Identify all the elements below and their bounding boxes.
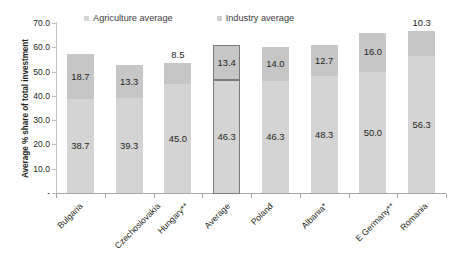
bar-segment-agriculture[interactable]: 48.3 <box>311 76 338 193</box>
plot-area: 70.060.050.040.030.020.010.0- 38.718.739… <box>56 18 446 194</box>
bar-segment-agriculture[interactable]: 50.0 <box>359 72 386 193</box>
x-axis-category-label: Czechoslovakia <box>113 201 163 251</box>
chart-container: Average % share of total investment Agri… <box>0 0 450 273</box>
y-axis-title: Average % share of total investment <box>21 14 30 204</box>
bar-segment-industry[interactable]: 8.5 <box>164 63 191 84</box>
y-axis-tick-mark <box>52 144 56 145</box>
bar-value-label: 56.3 <box>413 120 431 129</box>
x-axis-tick-mark <box>349 194 350 198</box>
y-axis-tick-mark <box>52 23 56 24</box>
bar-column[interactable]: 39.313.3 <box>116 65 143 193</box>
bar-value-label: 18.7 <box>71 72 89 81</box>
y-axis-tick-mark <box>52 96 56 97</box>
bar-segment-agriculture[interactable]: 45.0 <box>164 84 191 193</box>
bar-segment-agriculture[interactable]: 46.3 <box>213 80 240 194</box>
y-axis-tick-mark <box>52 169 56 170</box>
bar-segment-industry[interactable]: 18.7 <box>67 54 94 99</box>
bar-value-label: 39.3 <box>120 141 138 150</box>
x-axis-category-label: Romania <box>398 201 429 232</box>
bar-value-label: 46.3 <box>266 132 284 141</box>
bar-value-label: 8.5 <box>171 50 184 59</box>
bar-column[interactable]: 45.08.5 <box>164 63 191 193</box>
bar-segment-industry[interactable]: 13.3 <box>116 65 143 97</box>
bar-column[interactable]: 48.312.7 <box>311 45 338 193</box>
bar-column[interactable]: 46.313.4 <box>213 45 240 193</box>
x-axis-tick-mark <box>105 194 106 198</box>
bar-segment-industry[interactable]: 12.7 <box>311 45 338 76</box>
bar-value-label: 38.7 <box>71 141 89 150</box>
bar-value-label: 13.4 <box>218 58 236 67</box>
x-axis-tick-mark <box>202 194 203 198</box>
x-axis-category-label: Poland <box>249 201 275 227</box>
y-axis-tick-label: 30.0 <box>33 115 50 125</box>
x-axis-category-label: Albania* <box>300 201 330 231</box>
y-axis-tick-label: 70.0 <box>33 18 50 28</box>
x-axis-tick-mark <box>56 194 57 198</box>
bar-column[interactable]: 38.718.7 <box>67 54 94 193</box>
bar-segment-agriculture[interactable]: 46.3 <box>262 81 289 193</box>
x-axis-category-label: Bulgaria <box>56 201 85 230</box>
bar-segment-industry[interactable]: 14.0 <box>262 47 289 81</box>
bar-column[interactable]: 46.314.0 <box>262 47 289 193</box>
x-axis-tick-mark <box>446 194 447 198</box>
bar-value-label: 13.3 <box>120 77 138 86</box>
y-axis-tick-label: 10.0 <box>33 164 50 174</box>
bar-segment-agriculture[interactable]: 56.3 <box>408 56 435 193</box>
x-axis-tick-mark <box>300 194 301 198</box>
bar-value-label: 12.7 <box>315 56 333 65</box>
bar-value-label: 46.3 <box>218 132 236 141</box>
bar-segment-industry[interactable]: 10.3 <box>408 31 435 56</box>
y-axis-tick-mark <box>52 120 56 121</box>
bar-value-label: 45.0 <box>169 134 187 143</box>
bar-segment-industry[interactable]: 16.0 <box>359 33 386 72</box>
y-axis-tick-mark <box>52 47 56 48</box>
bar-segment-industry[interactable]: 13.4 <box>213 45 240 80</box>
y-axis-tick-label: - <box>47 188 50 198</box>
x-axis-tick-mark <box>251 194 252 198</box>
x-axis-category-label: E Germany** <box>354 201 397 244</box>
y-axis-tick-mark <box>52 72 56 73</box>
x-axis-category-label: Average <box>202 201 232 231</box>
bar-value-label: 50.0 <box>364 128 382 137</box>
bar-segment-agriculture[interactable]: 38.7 <box>67 99 94 193</box>
bar-segment-agriculture[interactable]: 39.3 <box>116 98 143 193</box>
x-axis-tick-mark <box>154 194 155 198</box>
y-axis-tick-label: 50.0 <box>33 67 50 77</box>
y-axis-tick-label: 20.0 <box>33 139 50 149</box>
y-axis-tick-label: 40.0 <box>33 91 50 101</box>
bar-value-label: 16.0 <box>364 47 382 56</box>
bar-value-label: 10.3 <box>413 18 431 27</box>
bar-column[interactable]: 50.016.0 <box>359 33 386 193</box>
y-axis-line <box>56 22 57 194</box>
bar-value-label: 14.0 <box>266 59 284 68</box>
x-axis-tick-mark <box>397 194 398 198</box>
y-axis-tick-label: 60.0 <box>33 42 50 52</box>
bar-column[interactable]: 56.310.3 <box>408 31 435 193</box>
bar-value-label: 48.3 <box>315 130 333 139</box>
